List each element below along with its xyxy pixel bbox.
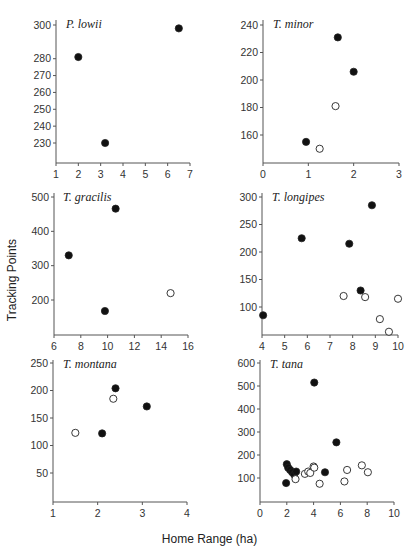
y-tick-label: 200 [30,384,48,396]
x-tick-label: 10 [102,340,114,352]
data-point-filled [65,252,72,259]
data-point-filled [112,385,119,392]
y-tick-label: 160 [240,129,258,141]
data-point-filled [260,312,267,319]
y-tick-label: 260 [33,86,51,98]
data-point-open [332,103,339,110]
data-point-open [292,476,299,483]
panel-t-minor: 0123160180200220240T. minor [240,17,402,180]
data-point-filled [298,235,305,242]
y-tick-label: 150 [239,273,257,285]
panel-t-tana: 0246810100200300400500600T. tana [237,357,400,520]
y-tick-label: 300 [237,426,255,438]
x-tick-label: 3 [139,507,145,519]
y-tick-label: 180 [240,101,258,113]
panel-title: T. minor [273,17,314,31]
data-point-filled [112,205,119,212]
x-tick-label: 7 [327,340,333,352]
x-tick-label: 3 [98,168,104,180]
panel-t-longipes: 45678910100150200250300T. longipes [239,190,404,352]
data-point-filled [75,53,82,60]
y-tick-label: 250 [30,357,48,369]
y-tick-label: 240 [240,19,258,31]
x-tick-label: 10 [392,340,404,352]
data-point-open [311,464,318,471]
x-tick-label: 12 [129,340,141,352]
x-tick-label: 7 [187,168,193,180]
scatter-panels: 1234567230240250260270280300P. lowii0123… [0,0,419,556]
x-tick-label: 4 [120,168,126,180]
x-tick-label: 4 [259,340,265,352]
panel-title: P. lowii [65,17,102,31]
y-tick-label: 200 [239,246,257,258]
x-tick-label: 2 [95,507,101,519]
y-tick-label: 100 [237,472,255,484]
panel-title: T. tana [270,357,303,371]
x-tick-label: 0 [257,507,263,519]
panel-title: T. longipes [272,190,325,204]
panel-title: T. gracilis [63,190,112,204]
y-tick-label: 100 [239,301,257,313]
y-tick-label: 200 [240,74,258,86]
data-point-open [340,292,347,299]
x-tick-label: 6 [51,340,57,352]
panel-title: T. montana [63,357,117,371]
x-tick-label: 5 [282,340,288,352]
y-tick-label: 250 [239,218,257,230]
data-point-open [341,478,348,485]
x-tick-label: 6 [304,340,310,352]
x-tick-label: 0 [260,168,266,180]
data-point-filled [143,403,150,410]
y-tick-label: 50 [36,467,48,479]
y-tick-label: 200 [31,294,49,306]
panel-t-gracilis: 6810121416200300400500T. gracilis [31,190,194,352]
y-tick-label: 400 [31,225,49,237]
x-tick-label: 8 [78,340,84,352]
data-point-open [110,395,117,402]
data-point-open [394,295,401,302]
x-tick-label: 2 [351,168,357,180]
y-tick-label: 150 [30,412,48,424]
x-tick-label: 2 [75,168,81,180]
data-point-open [364,469,371,476]
y-axis-label: Tracking Points [2,200,22,360]
x-tick-label: 10 [388,507,400,519]
y-tick-label: 270 [33,69,51,81]
x-tick-label: 2 [284,507,290,519]
y-tick-label: 300 [33,19,51,31]
y-tick-label: 100 [30,439,48,451]
data-point-filled [101,307,108,314]
y-tick-label: 600 [237,357,255,369]
x-tick-label: 4 [184,507,190,519]
y-tick-label: 280 [33,52,51,64]
x-tick-label: 8 [364,507,370,519]
data-point-filled [333,439,340,446]
data-point-open [362,294,369,301]
data-point-filled [293,468,300,475]
x-tick-label: 4 [311,507,317,519]
x-tick-label: 3 [396,168,402,180]
data-point-open [385,328,392,335]
data-point-filled [283,479,290,486]
x-tick-label: 16 [182,340,194,352]
x-axis-label: Home Range (ha) [0,532,419,546]
data-point-filled [302,138,309,145]
x-tick-label: 1 [50,507,56,519]
data-point-filled [368,202,375,209]
y-tick-label: 500 [237,380,255,392]
x-tick-label: 5 [142,168,148,180]
data-point-filled [311,379,318,386]
panel-p-lowii: 1234567230240250260270280300P. lowii [33,17,193,180]
x-tick-label: 14 [155,340,167,352]
y-axis-label-text: Tracking Points [5,239,19,321]
x-tick-label: 1 [53,168,59,180]
y-tick-label: 200 [237,449,255,461]
data-point-filled [175,25,182,32]
data-point-open [376,316,383,323]
data-point-filled [99,430,106,437]
y-tick-label: 240 [33,120,51,132]
y-tick-label: 300 [31,259,49,271]
data-point-filled [102,139,109,146]
y-tick-label: 220 [240,46,258,58]
y-tick-label: 230 [33,137,51,149]
